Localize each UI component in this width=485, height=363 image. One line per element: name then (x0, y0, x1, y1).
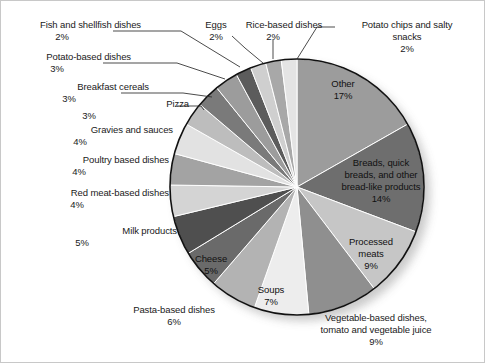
label-milk-text: Milk products (122, 225, 177, 236)
label-processed-text: Processed (349, 236, 393, 247)
leader-line-potato-based (103, 63, 225, 79)
label-potato-based-pct-text: 3% (50, 63, 64, 74)
label-vegetable-text: Vegetable-based dishes, (325, 312, 427, 323)
label-gravies-and-sauces: Gravies and sauces (1, 124, 173, 136)
label-breakfast-cereals-text: Breakfast cereals (77, 81, 149, 92)
label-poultry-pct-text: 4% (72, 166, 86, 177)
label-potato-based-dishes: Potato-based dishes (1, 51, 131, 63)
label-fish-pct-text: 2% (55, 31, 69, 42)
label-potato-chips: Potato chips and salty (337, 19, 477, 31)
label-fish-and-shellfish: Fish and shellfish dishes (1, 19, 141, 31)
label-breads: Breads, quick (323, 157, 439, 169)
label-cheese: Cheese (181, 253, 241, 265)
label-pasta-text: Pasta-based dishes (133, 304, 215, 315)
label-vegetable-based-dishes: Vegetable-based dishes, (281, 312, 471, 324)
label-soups-pct: 7% (241, 296, 301, 308)
label-chips-pct-text: 2% (400, 43, 414, 54)
label-processed-meats: Processed (331, 236, 411, 248)
label-breads-pct: 14% (323, 193, 439, 205)
label-pizza: Pizza (1, 98, 189, 110)
label-other-pct: 17% (311, 90, 375, 102)
label-pasta-based-dishes: Pasta-based dishes (109, 304, 239, 316)
label-breads-line2: breads, and other (323, 169, 439, 181)
label-chips-text: Potato chips and salty (362, 19, 453, 30)
label-cheese-pct: 5% (181, 265, 241, 277)
label-pizza-pct-text: 3% (82, 110, 96, 121)
label-redmeat-text: Red meat-based dishes (71, 187, 169, 198)
label-pizza-pct: 3% (1, 110, 177, 122)
label-vegetable-pct: 9% (281, 336, 471, 348)
label-cheese-pct-text: 5% (204, 265, 218, 276)
label-soups-pct-text: 7% (264, 296, 278, 307)
label-processed-meats-line2: meats (331, 248, 411, 260)
label-potato-based-pct: 3% (1, 63, 113, 75)
label-breads-text3: bread-like products (342, 181, 421, 192)
label-potato-based-text: Potato-based dishes (46, 51, 131, 62)
label-soups-text: Soups (258, 284, 284, 295)
label-cheese-text: Cheese (195, 253, 227, 264)
label-chips-text2: snacks (393, 31, 422, 42)
label-vegetable-text2: tomato and vegetable juice (321, 324, 432, 335)
label-processed-meats-pct: 9% (331, 260, 411, 272)
label-other-text: Other (331, 78, 354, 89)
label-breakfast-cereals: Breakfast cereals (1, 81, 149, 93)
label-processed-text2: meats (358, 248, 383, 259)
label-vegetable-pct-text: 9% (369, 336, 383, 347)
label-gravies-pct: 4% (1, 136, 159, 148)
label-processed-pct-text: 9% (364, 260, 378, 271)
label-soups: Soups (241, 284, 301, 296)
label-gravies-text: Gravies and sauces (91, 124, 173, 135)
label-pasta-pct: 6% (109, 316, 239, 328)
label-rice-based-dishes: Rice-based dishes (229, 19, 339, 31)
label-poultry-text: Poultry based dishes (83, 154, 169, 165)
label-rice-pct-text: 2% (266, 31, 280, 42)
label-rice-text: Rice-based dishes (246, 19, 322, 30)
source-credit: Adapted from Sodium, It's Your Health, H… (469, 0, 485, 1)
label-fish-text: Fish and shellfish dishes (40, 19, 141, 30)
label-milk-products: Milk products (1, 225, 177, 237)
label-potato-chips-line2: snacks (337, 31, 477, 43)
label-pasta-pct-text: 6% (167, 316, 181, 327)
label-milk-pct: 5% (1, 237, 163, 249)
label-poultry-pct: 4% (1, 166, 157, 178)
label-milk-pct-text: 5% (75, 237, 89, 248)
label-breads-text2: breads, and other (345, 169, 418, 180)
label-eggs-text: Eggs (205, 19, 226, 30)
label-eggs-pct-text: 2% (209, 31, 223, 42)
label-vegetable-line2: tomato and vegetable juice (281, 324, 471, 336)
label-breads-pct-text: 14% (372, 193, 391, 204)
label-red-meat-based-dishes: Red meat-based dishes (1, 187, 169, 199)
label-fish-pct: 2% (1, 31, 123, 43)
label-breads-line3: bread-like products (323, 181, 439, 193)
label-redmeat-pct-text: 4% (70, 199, 84, 210)
label-red-meat-pct: 4% (1, 199, 153, 211)
label-potato-chips-pct: 2% (337, 43, 477, 55)
label-other: Other (311, 78, 375, 90)
pie-chart-figure: Fish and shellfish dishes 2% Potato-base… (0, 0, 485, 363)
label-gravies-pct-text: 4% (73, 136, 87, 147)
label-pizza-text: Pizza (166, 98, 189, 109)
label-poultry-based-dishes: Poultry based dishes (1, 154, 169, 166)
label-rice-pct: 2% (229, 31, 317, 43)
label-breads-text: Breads, quick (353, 157, 409, 168)
label-other-pct-text: 17% (334, 90, 353, 101)
